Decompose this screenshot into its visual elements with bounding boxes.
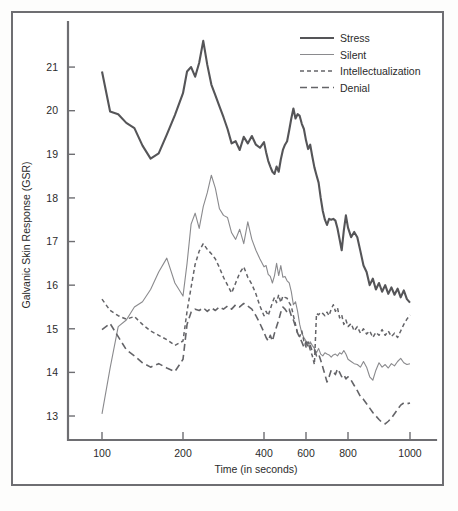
series-group xyxy=(102,41,410,424)
x-tick-label: 1000 xyxy=(398,447,422,459)
y-tick-label: 19 xyxy=(46,148,58,160)
figure-canvas: StressSilentIntellectualizationDenial 13… xyxy=(0,0,458,511)
chart-plot: StressSilentIntellectualizationDenial 13… xyxy=(0,0,458,511)
y-tick-label: 16 xyxy=(46,279,58,291)
legend-label-intellectualization: Intellectualization xyxy=(340,65,421,77)
legend-label-silent: Silent xyxy=(340,49,366,61)
x-axis-title: Time (in seconds) xyxy=(214,463,297,475)
x-tick-label: 100 xyxy=(93,447,111,459)
x-tick-label: 400 xyxy=(255,447,273,459)
y-tick-label: 21 xyxy=(46,61,58,73)
legend-label-denial: Denial xyxy=(340,82,370,94)
legend-group: StressSilentIntellectualizationDenial xyxy=(300,32,421,94)
x-tick-label: 600 xyxy=(297,447,315,459)
y-tick-label: 14 xyxy=(46,366,58,378)
series-line-stress xyxy=(102,41,410,303)
y-tick-label: 18 xyxy=(46,192,58,204)
x-tick-label: 800 xyxy=(339,447,357,459)
series-line-denial xyxy=(102,303,410,423)
axis-labels-group: 1314151617181920211002004006008001000Tim… xyxy=(20,61,422,475)
y-tick-label: 13 xyxy=(46,410,58,422)
y-tick-label: 20 xyxy=(46,104,58,116)
axis-spine xyxy=(68,22,436,440)
y-axis-title: Galvanic Skin Response (GSR) xyxy=(20,161,32,308)
axes-group xyxy=(68,22,436,440)
x-tick-label: 200 xyxy=(174,447,192,459)
y-tick-label: 15 xyxy=(46,323,58,335)
series-line-intellectualization xyxy=(102,244,410,365)
legend-label-stress: Stress xyxy=(340,32,370,44)
y-tick-label: 17 xyxy=(46,235,58,247)
